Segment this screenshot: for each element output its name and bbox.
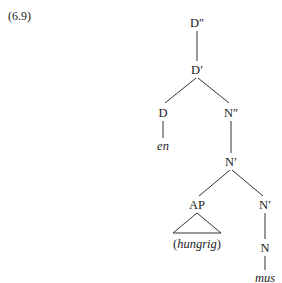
node-n-bar-upper: N′ — [225, 156, 237, 169]
hungrig-word: hungrig — [177, 237, 217, 251]
edge-np1-ap — [199, 170, 230, 196]
node-d-double-bar: D″ — [190, 17, 204, 30]
edge-np1-np2 — [232, 170, 263, 196]
leaf-hungrig: (hungrig) — [173, 238, 221, 251]
leaf-en: en — [157, 140, 169, 153]
node-n-double-bar: N″ — [224, 107, 238, 120]
node-d-bar: D′ — [191, 64, 203, 77]
node-ap: AP — [189, 199, 205, 212]
edge-dp-npp — [198, 78, 229, 103]
leaf-mus: mus — [255, 272, 275, 283]
tree-edges — [0, 0, 282, 283]
triangle-ap — [173, 213, 221, 233]
paren-close: ) — [217, 237, 221, 251]
node-d: D — [158, 107, 167, 120]
edge-dp-d — [165, 78, 196, 103]
node-n: N — [260, 242, 269, 255]
node-n-bar-lower: N′ — [259, 199, 271, 212]
